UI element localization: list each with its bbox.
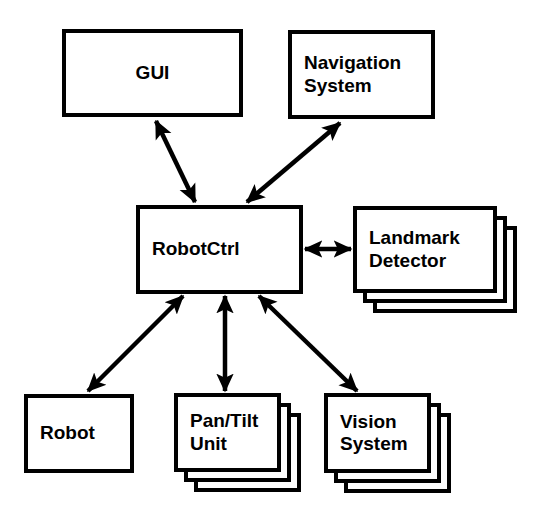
node-navigation-system-label: Navigation System	[292, 52, 431, 97]
edge-gui-robotctrl	[156, 121, 195, 202]
edge-robotctrl-vision	[259, 296, 357, 391]
edge-robotctrl-robot	[88, 296, 183, 391]
node-pan-tilt-unit-label: Pan/Tilt Unit	[178, 410, 277, 455]
node-robotctrl[interactable]: RobotCtrl	[136, 205, 303, 294]
node-navigation-system[interactable]: Navigation System	[288, 30, 435, 119]
node-vision-system[interactable]: Vision System	[324, 393, 431, 473]
node-gui-label: GUI	[66, 62, 239, 84]
node-robotctrl-label: RobotCtrl	[140, 238, 299, 260]
node-gui[interactable]: GUI	[62, 29, 243, 117]
node-robot-label: Robot	[28, 422, 130, 444]
architecture-diagram: GUINavigation SystemRobotCtrlLandmark De…	[0, 0, 539, 528]
node-landmark-detector-label: Landmark Detector	[357, 227, 493, 272]
node-robot[interactable]: Robot	[24, 394, 134, 473]
node-vision-system-label: Vision System	[328, 411, 427, 456]
edge-robotctrl-navigation	[247, 123, 340, 202]
node-landmark-detector[interactable]: Landmark Detector	[353, 206, 497, 293]
node-pan-tilt-unit[interactable]: Pan/Tilt Unit	[174, 393, 281, 472]
